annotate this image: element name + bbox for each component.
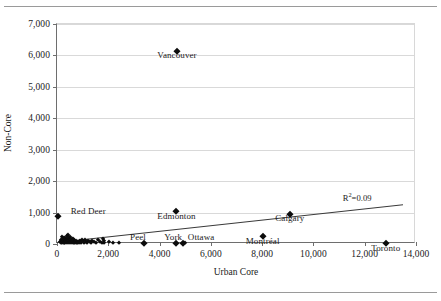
y-tick-label: 7,000: [28, 19, 50, 29]
y-tick-mark: [53, 150, 57, 151]
x-tick-mark: [416, 242, 417, 246]
x-tick-label: 6,000: [200, 249, 222, 259]
y-tick-mark: [53, 55, 57, 56]
x-tick-label: 4,000: [149, 249, 171, 259]
y-tick-label: 6,000: [28, 50, 50, 60]
plot-area: 01,0002,0003,0004,0005,0006,0007,00002,0…: [56, 23, 415, 243]
x-tick-label: 14,000: [403, 249, 430, 259]
data-point-label: Ottawa: [188, 232, 215, 242]
y-tick-label: 3,000: [28, 145, 50, 155]
x-tick-mark: [313, 242, 314, 246]
data-point-label: Calgary: [275, 213, 304, 223]
gridline-y: [57, 24, 414, 25]
y-tick-mark: [53, 24, 57, 25]
data-point: [110, 241, 115, 246]
data-point-label: Edmonton: [157, 211, 195, 221]
y-axis-title: Non-Core: [3, 114, 13, 152]
gridline-y: [57, 87, 414, 88]
data-point-label: Red Deer: [71, 206, 106, 216]
x-tick-label: 2,000: [97, 249, 119, 259]
y-tick-label: 0: [45, 239, 50, 249]
x-axis-title: Urban Core: [214, 267, 259, 277]
divider-top: [4, 6, 437, 7]
data-point-label: York: [164, 232, 182, 242]
trendline: [57, 204, 403, 243]
y-tick-label: 2,000: [28, 176, 50, 186]
y-tick-label: 5,000: [28, 82, 50, 92]
data-point-label: Vancouver: [157, 50, 196, 60]
r-squared-annotation: R2=0.09: [343, 191, 372, 203]
gridline-y: [57, 213, 414, 214]
x-tick-mark: [365, 242, 366, 246]
data-point-label: Toronto: [371, 243, 400, 253]
x-tick-mark: [211, 242, 212, 246]
x-tick-mark: [160, 242, 161, 246]
y-tick-label: 4,000: [28, 113, 50, 123]
x-tick-label: 8,000: [251, 249, 273, 259]
x-tick-label: 0: [55, 249, 60, 259]
x-tick-label: 10,000: [300, 249, 327, 259]
data-point-label: Montréal: [246, 236, 280, 246]
data-point-label: Peel: [130, 232, 146, 242]
data-point: [116, 240, 121, 245]
gridline-y: [57, 118, 414, 119]
y-tick-label: 1,000: [28, 208, 50, 218]
gridline-y: [57, 55, 414, 56]
gridline-y: [57, 150, 414, 151]
divider-bottom: [4, 292, 437, 293]
y-tick-mark: [53, 87, 57, 88]
gridline-y: [57, 181, 414, 182]
y-tick-mark: [53, 118, 57, 119]
scatter-chart-figure: Non-Core Urban Core 01,0002,0003,0004,00…: [0, 8, 441, 290]
y-tick-mark: [53, 181, 57, 182]
